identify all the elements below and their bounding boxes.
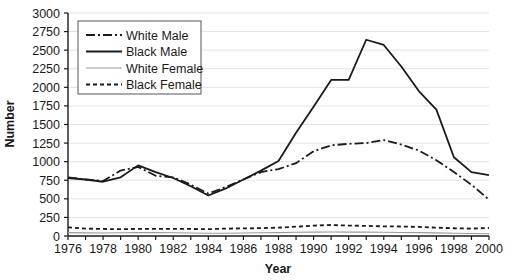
x-tick-label: 1978 <box>89 242 117 256</box>
y-tick-label: 3000 <box>32 7 60 21</box>
legend-label-black-female: Black Female <box>126 78 202 92</box>
y-tick-label: 2750 <box>32 25 60 39</box>
x-axis <box>68 236 489 240</box>
chart-figure: 0250500750100012501500175020002250250027… <box>0 0 510 280</box>
x-tick-label: 1982 <box>159 242 187 256</box>
y-tick-label: 1000 <box>32 155 60 169</box>
legend-label-white-male: White Male <box>126 29 189 43</box>
x-tick-label: 1992 <box>335 242 363 256</box>
legend: White MaleBlack MaleWhite FemaleBlack Fe… <box>78 21 203 94</box>
x-tick-label: 1990 <box>300 242 328 256</box>
line-chart: 0250500750100012501500175020002250250027… <box>0 0 510 280</box>
series-line-black-female <box>68 225 489 229</box>
x-tick-label: 1984 <box>194 242 222 256</box>
y-tick-labels: 0250500750100012501500175020002250250027… <box>32 7 60 244</box>
x-tick-label: 1980 <box>124 242 152 256</box>
legend-label-white-female: White Female <box>126 62 203 76</box>
y-tick-label: 2000 <box>32 81 60 95</box>
y-axis-title: Number <box>3 100 17 147</box>
x-tick-label: 1986 <box>230 242 258 256</box>
x-tick-label: 1976 <box>54 242 82 256</box>
x-axis-title: Year <box>265 262 292 276</box>
y-tick-label: 500 <box>39 192 60 206</box>
y-axis <box>64 13 68 236</box>
y-tick-label: 750 <box>39 174 60 188</box>
x-tick-label: 1994 <box>370 242 398 256</box>
x-tick-label: 1998 <box>440 242 468 256</box>
x-tick-label: 2000 <box>475 242 503 256</box>
x-tick-label: 1996 <box>405 242 433 256</box>
legend-label-black-male: Black Male <box>126 45 187 59</box>
y-tick-label: 1500 <box>32 118 60 132</box>
y-tick-label: 1750 <box>32 99 60 113</box>
y-tick-label: 2250 <box>32 62 60 76</box>
series-line-white-female <box>68 232 489 234</box>
y-tick-label: 1250 <box>32 137 60 151</box>
x-tick-labels: 1976197819801982198419861988199019921994… <box>54 242 503 256</box>
y-tick-label: 2500 <box>32 44 60 58</box>
y-tick-label: 250 <box>39 211 60 225</box>
x-tick-label: 1988 <box>265 242 293 256</box>
